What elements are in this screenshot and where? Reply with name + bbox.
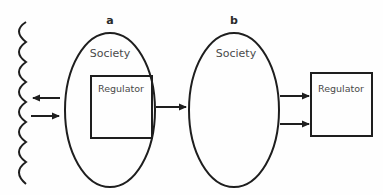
society-label-b: Society xyxy=(216,47,257,60)
panel-b-label: b xyxy=(230,14,238,27)
diagram-canvas: a Society Regulator b Society Regulator xyxy=(0,0,383,195)
society-label-a: Society xyxy=(90,47,131,60)
society-regulator-diagram: a Society Regulator b Society Regulator xyxy=(0,0,383,195)
regulator-label-a: Regulator xyxy=(98,83,144,94)
panel-b: b Society Regulator xyxy=(189,14,372,187)
panel-a: a Society Regulator xyxy=(65,14,155,187)
regulator-label-b: Regulator xyxy=(318,83,364,94)
environment-wavy-line xyxy=(19,22,26,184)
panel-a-label: a xyxy=(106,14,113,27)
